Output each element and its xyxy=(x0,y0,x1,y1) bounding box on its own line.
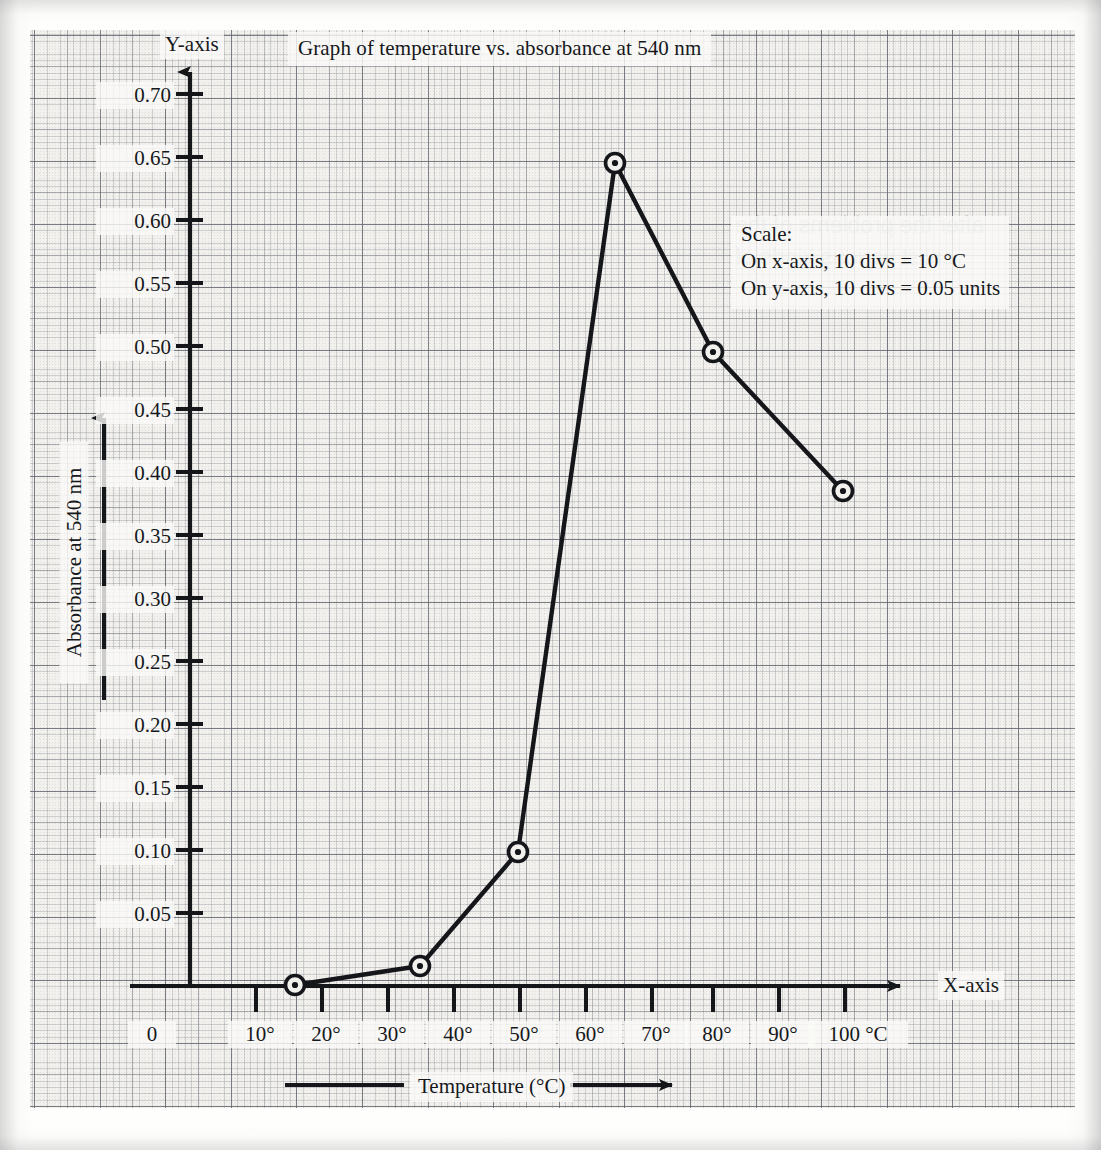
x-tick-label: 100 °C xyxy=(808,1021,908,1048)
x-axis-title: Temperature (°C) xyxy=(410,1072,573,1102)
scale-x-line: On x-axis, 10 divs = 10 °C xyxy=(741,248,1000,275)
y-axis xyxy=(176,72,203,986)
y-tick-label: 0.60 xyxy=(96,208,174,235)
x-tick-label: 90° xyxy=(751,1021,815,1048)
data-point xyxy=(286,976,305,995)
y-tick-label: 0.25 xyxy=(96,649,174,676)
x-tick-label: 10° xyxy=(228,1021,292,1048)
x-tick-label: 70° xyxy=(624,1021,688,1048)
y-tick-label: 0.20 xyxy=(96,712,174,739)
y-axis-name-label: Y-axis xyxy=(160,30,224,59)
y-tick-label: 0.50 xyxy=(96,334,174,361)
data-point xyxy=(834,482,853,501)
scale-y-line: On y-axis, 10 divs = 0.05 units xyxy=(741,275,1000,302)
data-point xyxy=(606,154,625,173)
x-tick-label: 30° xyxy=(360,1021,424,1048)
y-tick-label: 0.40 xyxy=(96,460,174,487)
x-axis-ticks xyxy=(256,986,845,1012)
y-axis-title: Absorbance at 540 nm xyxy=(60,442,89,684)
data-point xyxy=(411,957,430,976)
scale-heading: Scale: xyxy=(741,221,1000,248)
x-axis-name-label: X-axis xyxy=(938,971,1004,1000)
y-tick-label: 0.10 xyxy=(96,838,174,865)
y-tick-label: 0.15 xyxy=(96,775,174,802)
y-tick-label: 0.35 xyxy=(96,523,174,550)
y-tick-label: 0.30 xyxy=(96,586,174,613)
x-axis xyxy=(130,986,900,1012)
x-tick-label: 80° xyxy=(685,1021,749,1048)
data-point xyxy=(509,843,528,862)
y-tick-label: 0.55 xyxy=(96,271,174,298)
x-tick-label: 20° xyxy=(294,1021,358,1048)
scanned-page: after the problems of the enlist various… xyxy=(0,0,1101,1150)
scale-legend-box: Scale: On x-axis, 10 divs = 10 °C On y-a… xyxy=(731,216,1009,309)
y-tick-label: 0.05 xyxy=(96,901,174,928)
y-tick-label: 0.45 xyxy=(96,397,174,424)
data-point xyxy=(704,343,723,362)
graph-drawing xyxy=(0,0,1101,1150)
x-tick-label: 60° xyxy=(558,1021,622,1048)
y-tick-label: 0.65 xyxy=(96,145,174,172)
x-tick-label: 0 xyxy=(128,1021,176,1048)
x-tick-label: 50° xyxy=(492,1021,556,1048)
x-tick-label: 40° xyxy=(426,1021,490,1048)
y-tick-label: 0.70 xyxy=(96,82,174,109)
chart-title: Graph of temperature vs. absorbance at 5… xyxy=(288,32,711,66)
